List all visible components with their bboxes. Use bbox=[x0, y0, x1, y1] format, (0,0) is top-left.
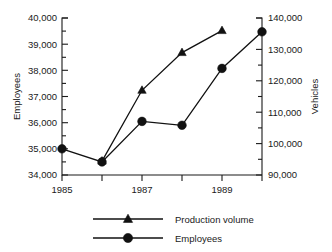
employees-line bbox=[62, 32, 262, 162]
chart-legend: Production volume Employees bbox=[93, 214, 254, 244]
left-axis-spine bbox=[62, 18, 262, 175]
left-tick-label-36000: 36,000 bbox=[28, 117, 57, 128]
left-tick-label-37000: 37,000 bbox=[28, 91, 57, 102]
employees-marker bbox=[98, 158, 107, 167]
right-tick-label-130000: 130,000 bbox=[268, 44, 302, 55]
left-tick-label-38000: 38,000 bbox=[28, 65, 57, 76]
production-volume-marker bbox=[218, 26, 226, 33]
legend-label-employees: Employees bbox=[175, 233, 222, 244]
right-tick-label-90000: 90,000 bbox=[268, 169, 297, 180]
legend-item-production-volume[interactable]: Production volume bbox=[93, 214, 254, 225]
left-tick-label-34000: 34,000 bbox=[28, 169, 57, 180]
right-tick-label-120000: 120,000 bbox=[268, 75, 302, 86]
employees-marker bbox=[218, 64, 227, 73]
legend-circle-icon bbox=[123, 233, 132, 242]
line-chart: 34,000 35,000 36,000 37,000 38,000 39,00… bbox=[0, 0, 332, 252]
left-tick-label-39000: 39,000 bbox=[28, 39, 57, 50]
right-tick-label-140000: 140,000 bbox=[268, 12, 302, 23]
production-volume-line bbox=[102, 31, 222, 162]
legend-triangle-icon bbox=[123, 214, 132, 222]
production-volume-marker bbox=[178, 48, 186, 56]
series-employees bbox=[58, 28, 267, 167]
x-axis-ticks bbox=[62, 175, 262, 181]
legend-label-production-volume: Production volume bbox=[175, 214, 254, 225]
right-tick-label-100000: 100,000 bbox=[268, 138, 302, 149]
right-axis-minor-ticks bbox=[258, 34, 262, 160]
employees-marker bbox=[138, 117, 147, 126]
right-axis-title: Vehicles bbox=[309, 79, 320, 115]
employees-marker bbox=[58, 145, 67, 154]
left-tick-label-35000: 35,000 bbox=[28, 143, 57, 154]
right-tick-label-110000: 110,000 bbox=[268, 107, 302, 118]
employees-marker bbox=[178, 121, 187, 130]
x-tick-label-1989: 1989 bbox=[211, 184, 232, 195]
chart-container: 34,000 35,000 36,000 37,000 38,000 39,00… bbox=[0, 0, 332, 252]
x-tick-label-1985: 1985 bbox=[51, 184, 72, 195]
series-production-volume bbox=[98, 26, 226, 164]
left-tick-label-40000: 40,000 bbox=[28, 12, 57, 23]
employees-marker bbox=[258, 28, 267, 37]
left-axis-title: Employees bbox=[11, 73, 22, 120]
x-tick-label-1987: 1987 bbox=[131, 184, 152, 195]
legend-item-employees[interactable]: Employees bbox=[93, 233, 222, 244]
